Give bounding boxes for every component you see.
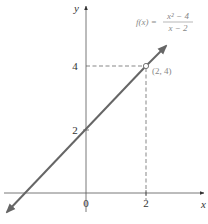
formula-denominator: x − 2 — [167, 23, 188, 33]
open-point-hole — [143, 63, 148, 68]
function-line-lower — [7, 68, 145, 213]
y-tick-label-2: 2 — [72, 124, 78, 136]
function-line-upper — [148, 46, 167, 65]
y-tick-label-4: 4 — [72, 60, 78, 72]
function-graph: x y 0 2 2 4 (2, 4) f(x) = x² − 4 x − 2 — [0, 0, 208, 224]
x-axis-label: x — [200, 198, 206, 210]
x-tick-label-0: 0 — [83, 197, 89, 209]
formula-lhs: f(x) = — [136, 17, 157, 27]
formula-numerator: x² − 4 — [166, 11, 189, 21]
y-axis-label: y — [73, 2, 79, 14]
point-label: (2, 4) — [152, 66, 172, 76]
function-formula: f(x) = x² − 4 x − 2 — [136, 11, 193, 33]
